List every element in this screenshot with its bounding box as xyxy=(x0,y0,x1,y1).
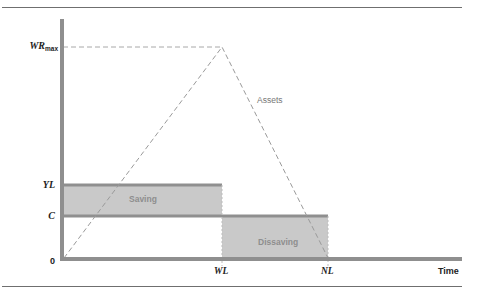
x-label-time: Time xyxy=(438,266,459,276)
y-label-zero: 0 xyxy=(50,256,55,266)
x-label-wl: WL xyxy=(214,266,228,276)
x-label-nl: NL xyxy=(321,266,334,276)
dissaving-label: Dissaving xyxy=(258,237,298,247)
x-axis xyxy=(60,257,462,261)
y-label-yl: YL xyxy=(30,179,55,190)
y-axis xyxy=(60,19,64,261)
y-label-wrmax-main: WR xyxy=(29,40,45,51)
y-label-wrmax: WRmax xyxy=(24,40,58,52)
saving-label: Saving xyxy=(129,194,157,204)
life-cycle-diagram xyxy=(0,0,479,290)
assets-label: Assets xyxy=(257,95,283,105)
y-label-wrmax-sub: max xyxy=(45,45,58,52)
y-label-c: C xyxy=(30,210,55,221)
